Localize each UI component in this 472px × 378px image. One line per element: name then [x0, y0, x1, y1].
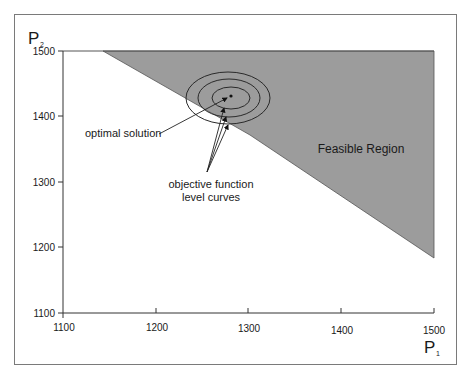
lp-diagram: 1500 1400 1300 1200 1100 1100 1200 1300 …	[0, 0, 472, 378]
x-tick-label: 1500	[423, 325, 446, 336]
feasible-region-label: Feasible Region	[318, 142, 405, 156]
y-tick-label: 1200	[33, 242, 56, 253]
x-tick-label: 1300	[238, 323, 261, 334]
optimal-point	[229, 94, 232, 97]
y-tick-label: 1100	[33, 308, 55, 319]
x-axis-title-sub: 1	[436, 350, 440, 357]
y-tick-label: 1300	[33, 177, 56, 188]
x-axis-title: P	[424, 338, 435, 357]
x-tick-label: 1200	[146, 322, 169, 333]
y-axis-title: P	[28, 29, 39, 48]
x-tick-label: 1400	[331, 325, 354, 336]
level-curves-label-line1: objective function	[169, 178, 254, 190]
level-curves-label-line2: level curves	[182, 191, 241, 203]
optimal-solution-label: optimal solution	[85, 127, 161, 139]
y-ticks	[58, 51, 63, 313]
y-axis-title-sub: 2	[40, 41, 44, 48]
x-tick-label: 1100	[53, 322, 75, 333]
y-tick-label: 1400	[33, 111, 56, 122]
